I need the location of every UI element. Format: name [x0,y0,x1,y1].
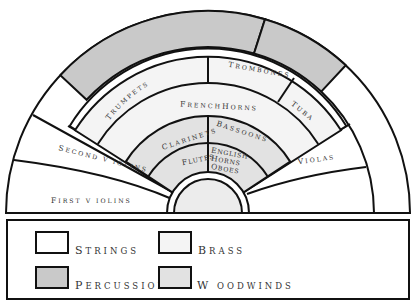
legend-label-woodwinds: W OODWINDS [197,279,294,292]
legend-label-percussion: PERCUSSION [75,279,168,292]
first-violins-label: FIRST V IOLINS [51,196,132,205]
legend-label-strings: STRINGS [75,244,139,257]
legend-swatch-percussion [36,267,68,288]
legend-swatch-woodwinds [159,267,191,288]
legend-swatch-strings [36,232,68,253]
legend-swatch-brass [159,232,191,253]
orchestra-seating-chart: TRUMPETS TROMBONES TUBA FRENCHHORNS CLAR… [0,0,415,305]
legend-label-brass: BRASS [198,244,245,257]
